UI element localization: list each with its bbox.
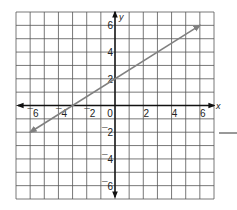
x-tick-label: ¯6 — [27, 108, 40, 119]
y-tick-label: 4 — [107, 47, 113, 58]
y-tick-label: ¯6 — [101, 181, 114, 192]
x-tick-label: 2 — [144, 108, 150, 119]
x-tick-label: ¯2 — [83, 108, 96, 119]
x-tick-label: 6 — [200, 108, 206, 119]
y-tick-label: ¯4 — [101, 154, 114, 165]
coordinate-plane: xy¯6¯4¯20246¯6¯4¯2246 — [0, 0, 237, 210]
y-axis-label: y — [118, 12, 124, 22]
y-tick-label: 6 — [107, 20, 113, 31]
axes — [18, 12, 214, 197]
x-tick-label: 4 — [172, 108, 178, 119]
x-tick-label: 0 — [107, 108, 113, 119]
y-tick-label: ¯2 — [101, 127, 114, 138]
x-axis-label: x — [215, 101, 221, 111]
